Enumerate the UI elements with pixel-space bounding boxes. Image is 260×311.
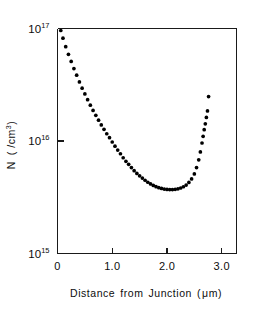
data-point (187, 181, 191, 185)
data-point (190, 177, 194, 181)
carrier-concentration-plot: 01.02.03.0 101510161017 DistancefromJunc… (0, 0, 260, 311)
data-point (97, 118, 101, 122)
data-point (119, 152, 123, 156)
data-point (116, 148, 120, 152)
data-point (61, 36, 65, 40)
data-point (99, 123, 103, 127)
data-point (193, 172, 197, 176)
data-point (184, 183, 188, 187)
data-point (201, 134, 205, 138)
data-point (83, 92, 87, 96)
data-point (199, 150, 203, 154)
x-tick-label: 3.0 (214, 260, 230, 272)
data-point (200, 141, 204, 145)
data-point (59, 29, 63, 33)
data-point (75, 73, 79, 77)
data-point (72, 67, 76, 71)
data-point (110, 140, 114, 144)
data-point (69, 60, 73, 64)
data-point (124, 159, 128, 163)
data-point (80, 86, 84, 90)
data-point (121, 156, 125, 160)
data-point (88, 103, 92, 107)
data-point (108, 136, 112, 140)
data-point (202, 128, 206, 132)
data-point (195, 166, 199, 170)
data-point (113, 144, 117, 148)
data-point (102, 127, 106, 131)
data-point (78, 80, 82, 84)
figure-container: 01.02.03.0 101510161017 DistancefromJunc… (0, 0, 260, 311)
data-point (105, 132, 109, 136)
data-point (67, 52, 71, 56)
data-point (130, 166, 134, 170)
data-point (64, 45, 68, 49)
x-tick-label: 0 (54, 260, 60, 272)
x-tick-label: 1.0 (104, 260, 120, 272)
data-point (132, 169, 136, 173)
data-point (205, 116, 209, 120)
data-point (86, 98, 90, 102)
data-point (91, 109, 95, 113)
data-point (127, 163, 131, 167)
data-point (207, 95, 211, 99)
data-point (94, 114, 98, 118)
data-point (203, 122, 207, 126)
data-point (197, 158, 201, 162)
data-point (206, 109, 210, 113)
x-tick-label: 2.0 (159, 260, 175, 272)
